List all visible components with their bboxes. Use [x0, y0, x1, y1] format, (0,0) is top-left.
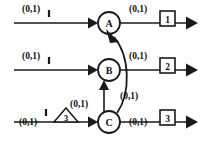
output-edge-c-arrowhead-icon [186, 116, 198, 129]
node-b-label: B [106, 65, 113, 76]
input-edge-a-arrowhead-icon [88, 18, 98, 29]
input-edge-c-arrowhead-icon [88, 117, 98, 128]
input-edge-b-label: (0,1) [22, 51, 40, 62]
diagram-canvas: (0,1) (0,1) (0,1) (0,1) (0,1) (0,1) A B … [0, 0, 202, 143]
output-edge-a-arrowhead-icon [186, 17, 198, 30]
flow-network-diagram: (0,1) (0,1) (0,1) (0,1) (0,1) (0,1) A B … [0, 0, 202, 143]
triangle-3-label: 3 [64, 113, 69, 123]
output-edge-c-label: (0,1) [129, 117, 147, 128]
output-box-b-label: 2 [165, 62, 170, 72]
node-c-label: C [105, 117, 112, 128]
input-edge-c-label: (0,1) [19, 117, 37, 128]
output-edge-a-label: (0,1) [129, 4, 147, 15]
internal-edge-c-to-b-label: (0,1) [70, 99, 88, 110]
output-edge-b-label: (0,1) [129, 51, 147, 62]
internal-edge-c-to-a-label: (0,1) [120, 91, 138, 102]
node-a-label: A [105, 18, 113, 29]
input-edge-a-label: (0,1) [22, 4, 40, 15]
input-edge-b-arrowhead-icon [88, 65, 98, 76]
output-box-c-label: 3 [165, 114, 170, 124]
output-edge-b-arrowhead-icon [186, 64, 198, 77]
output-box-a-label: 1 [165, 15, 170, 25]
